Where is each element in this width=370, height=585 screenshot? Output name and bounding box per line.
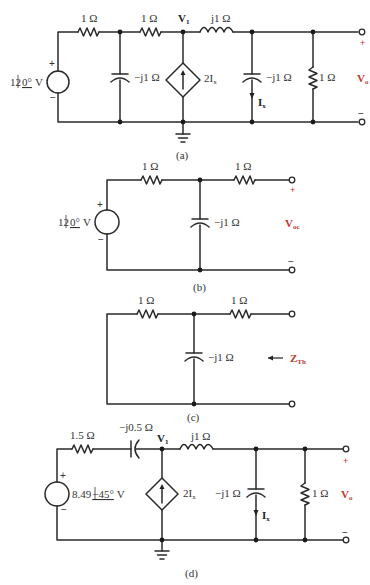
r2-label: 1 Ω [141, 12, 157, 24]
panel-d-caption: (d) [185, 567, 198, 580]
inductor-label: j1 Ω [190, 430, 210, 442]
load-resistor-label: 1 Ω [312, 487, 328, 499]
output-terminal-negative [343, 537, 349, 543]
node-v1-label: V1 [157, 432, 169, 446]
r2-label: 1 Ω [235, 160, 251, 172]
c2-label: −j1 Ω [266, 71, 292, 83]
panel-c-caption: (c) [187, 411, 200, 424]
r1-label: 1.5 Ω [70, 429, 95, 441]
resistor-icon [234, 176, 255, 184]
terminal-top [289, 311, 295, 317]
panel-a-caption: (a) [176, 149, 189, 162]
r1-label: 1 Ω [142, 160, 158, 172]
voltage-source-icon [47, 71, 69, 93]
output-terminal-negative [289, 267, 295, 273]
current-arrow-icon [254, 510, 259, 516]
panel-b-caption: (b) [193, 281, 206, 294]
panel-a-circuit: + − 120°V 1 Ω 1 Ω −j1 Ω V1 j1 Ω 2Ix −j1 … [10, 12, 369, 162]
panel-b-wires [107, 180, 289, 270]
output-minus-sign: − [342, 527, 348, 538]
inductor-label: j1 Ω [210, 12, 230, 24]
output-terminal-positive [359, 29, 365, 35]
resistor-icon [309, 67, 317, 89]
current-ix-label: Ix [262, 509, 270, 523]
zth-label: ZTh [290, 352, 306, 366]
resistor-icon [141, 176, 162, 184]
load-resistor-label: 1 Ω [319, 71, 335, 83]
output-plus-sign: + [360, 38, 365, 48]
source-minus-sign: − [98, 234, 104, 245]
source-plus-sign: + [60, 470, 66, 481]
source-value-label: 120°V [10, 76, 43, 88]
series-capacitor-label: −j0.5 Ω [119, 421, 153, 433]
output-terminal-positive [343, 446, 349, 452]
resistor-icon [72, 445, 93, 453]
dependent-current-source-icon [146, 478, 178, 510]
panel-c-wires [107, 314, 289, 404]
output-plus-sign: + [343, 456, 348, 466]
resistor-icon [301, 483, 309, 505]
output-terminal-negative [359, 119, 365, 125]
source-minus-sign: − [50, 92, 56, 103]
panel-d-circuit: + − 8.49−45°V 1.5 Ω −j0.5 Ω V1 j1 Ω 2Ix … [45, 421, 353, 580]
dep-source-label: 2Ix [204, 72, 217, 86]
output-vo-label: Vo [341, 488, 353, 502]
circuit-figure: + − 120°V 1 Ω 1 Ω −j1 Ω V1 j1 Ω 2Ix −j1 … [0, 0, 370, 585]
r1-label: 1 Ω [81, 12, 97, 24]
output-voc-label: Voc [285, 217, 300, 231]
node-v1-label: V1 [178, 12, 190, 26]
c1-label: −j1 Ω [208, 351, 234, 363]
source-plus-sign: + [97, 199, 103, 210]
inductor-icon [180, 445, 213, 450]
dependent-current-source-icon [166, 63, 200, 97]
current-arrow-icon [250, 93, 255, 99]
panel-a-wires [58, 32, 358, 142]
output-minus-sign: − [288, 256, 294, 267]
inductor-icon [200, 28, 233, 33]
source-plus-sign: + [49, 58, 55, 69]
output-terminal-positive [289, 177, 295, 183]
resistor-icon [230, 310, 251, 318]
source-value-label: 120°V [58, 216, 91, 228]
r2-label: 1 Ω [231, 294, 247, 306]
source-minus-sign: − [61, 504, 67, 515]
resistor-icon [137, 310, 158, 318]
panel-d-wires [57, 449, 343, 559]
resistor-icon [78, 28, 99, 36]
zth-arrow-icon [268, 356, 283, 361]
source-value-label: 8.49−45°V [72, 488, 125, 500]
resistor-icon [140, 28, 161, 36]
c2-label: −j1 Ω [215, 487, 241, 499]
panel-c-circuit: 1 Ω 1 Ω −j1 Ω ZTh (c) [107, 294, 306, 424]
current-ix-label: Ix [258, 96, 266, 110]
voltage-source-icon [95, 210, 119, 234]
output-minus-sign: − [358, 108, 364, 119]
output-vo-label: Vo [357, 72, 369, 86]
output-plus-sign: + [290, 185, 295, 195]
panel-b-circuit: + − 120°V 1 Ω 1 Ω −j1 Ω + Voc − (b) [58, 160, 300, 294]
r1-label: 1 Ω [138, 294, 154, 306]
c1-label: −j1 Ω [214, 216, 240, 228]
voltage-source-icon [45, 482, 69, 506]
terminal-bottom [289, 401, 295, 407]
c1-label: −j1 Ω [134, 71, 160, 83]
dep-source-label: 2Ix [183, 487, 196, 501]
